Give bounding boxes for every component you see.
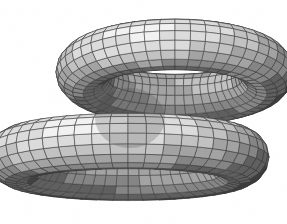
paper-grain-overlay [0,0,287,224]
figure-container [0,0,287,224]
torus-render-canvas [0,0,287,224]
